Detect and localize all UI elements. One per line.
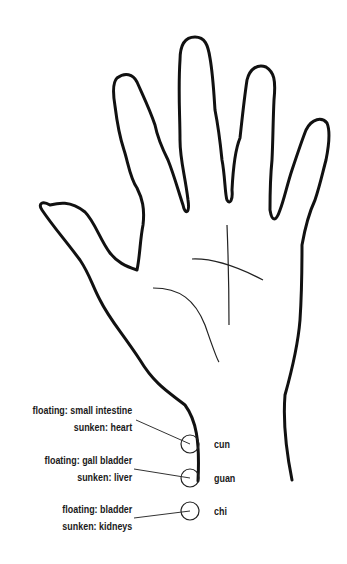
- palm-line-vertical: [227, 225, 229, 325]
- label-chi-organs: floating: bladder sunken: kidneys: [62, 501, 132, 535]
- label-guan-floating: floating: gall bladder: [44, 452, 132, 469]
- palm-line-head: [153, 288, 219, 362]
- position-name-cun: cun: [214, 436, 230, 453]
- position-name-chi: chi: [214, 503, 227, 520]
- label-cun-floating: floating: small intestine: [32, 402, 132, 419]
- label-cun-sunken: sunken: heart: [32, 419, 132, 436]
- label-chi-sunken: sunken: kidneys: [62, 518, 132, 535]
- leader-line-cun: [136, 420, 190, 444]
- label-guan-organs: floating: gall bladder sunken: liver: [44, 452, 132, 486]
- label-guan-sunken: sunken: liver: [44, 469, 132, 486]
- palm-line-heart: [192, 259, 263, 280]
- position-name-guan: guan: [214, 470, 235, 487]
- label-cun-organs: floating: small intestine sunken: heart: [32, 402, 132, 436]
- label-chi-floating: floating: bladder: [62, 501, 132, 518]
